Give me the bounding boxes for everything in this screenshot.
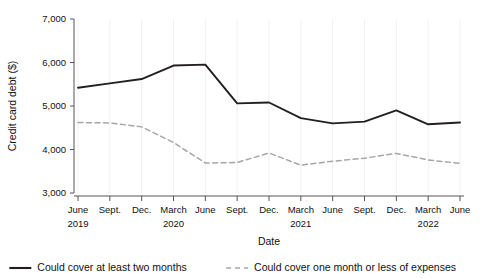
y-tick-labels: 3,0004,0005,0006,0007,000 [42,13,74,198]
line-chart: 3,0004,0005,0006,0007,000 JuneSept.Dec.M… [0,0,488,279]
chart-figure: 3,0004,0005,0006,0007,000 JuneSept.Dec.M… [0,0,488,279]
x-tick-label: Dec. [132,204,152,215]
y-tick-label: 5,000 [42,100,66,111]
y-tick-label: 4,000 [42,144,66,155]
y-tick-label: 7,000 [42,13,66,24]
x-axis-title: Date [258,235,280,247]
x-tick-label: March [288,204,314,215]
x-tick-label: June [450,204,471,215]
x-year-label: 2021 [290,218,311,229]
x-tick-label: June [195,204,216,215]
x-tick-label: March [415,204,441,215]
x-tick-label: March [160,204,186,215]
x-tick-label: Dec. [259,204,279,215]
x-year-label: 2019 [67,218,88,229]
legend-label-2: Could cover one month or less of expense… [254,261,456,273]
y-tick-label: 6,000 [42,57,66,68]
x-year-labels: 2019202020212022 [67,218,438,229]
legend-label-1: Could cover at least two months [37,261,186,273]
x-tick-label: June [322,204,343,215]
x-tick-label: Sept. [226,204,248,215]
y-axis-title: Credit card debt ($) [6,61,18,151]
x-tick-label: Sept. [353,204,375,215]
x-tick-label: Dec. [387,204,407,215]
chart-legend: Could cover at least two monthsCould cov… [9,261,456,273]
y-tick-label: 3,000 [42,187,66,198]
x-tick-label: June [68,204,89,215]
x-tick-label: Sept. [99,204,121,215]
x-tick-labels: JuneSept.Dec.MarchJuneSept.Dec.MarchJune… [68,196,471,215]
x-year-label: 2022 [418,218,439,229]
x-year-label: 2020 [163,218,184,229]
gridlines [78,19,460,193]
